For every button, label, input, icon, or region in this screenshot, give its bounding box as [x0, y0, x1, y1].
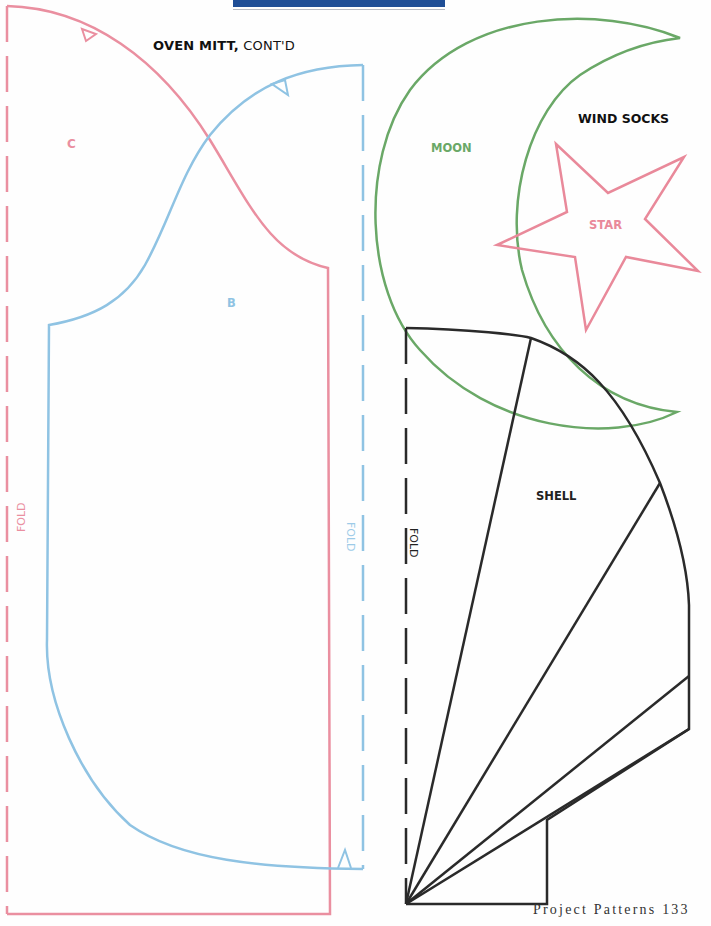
- notch-b-top: [272, 80, 288, 95]
- pattern-piece-b: [47, 65, 363, 869]
- page-title: OVEN MITT, CONT'D: [153, 38, 295, 53]
- pattern-piece-shell: [406, 328, 689, 904]
- label-star: STAR: [589, 218, 622, 232]
- label-shell: SHELL: [536, 489, 576, 503]
- title-bold: OVEN MITT,: [153, 38, 239, 53]
- notch-c: [82, 29, 96, 41]
- pattern-piece-moon: [375, 19, 680, 429]
- pattern-drawings: [0, 0, 711, 926]
- label-c: C: [67, 137, 76, 151]
- title-rest: CONT'D: [239, 38, 295, 53]
- pattern-page: OVEN MITT, CONT'D WIND SOCKS MOON STAR C…: [0, 0, 711, 926]
- fold-label-black: FOLD: [407, 528, 420, 558]
- notch-b-bottom: [338, 850, 351, 868]
- label-moon: MOON: [431, 141, 472, 155]
- pattern-piece-c: [7, 6, 330, 914]
- label-b: B: [227, 296, 236, 310]
- section-title-wind-socks: WIND SOCKS: [578, 111, 669, 126]
- page-footer: Project Patterns 133: [533, 902, 690, 918]
- fold-label-blue: FOLD: [344, 522, 357, 552]
- pattern-piece-star: [497, 144, 698, 330]
- fold-label-pink: FOLD: [15, 502, 28, 532]
